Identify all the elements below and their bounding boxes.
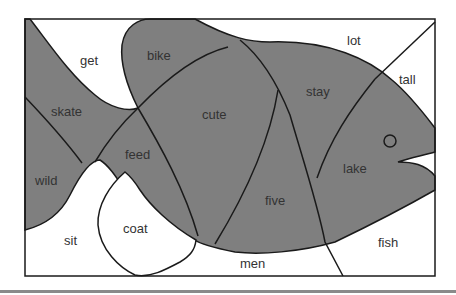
separator-bar — [0, 290, 456, 293]
label-lake: lake — [343, 161, 367, 176]
label-sit: sit — [64, 233, 77, 248]
label-men: men — [240, 256, 265, 271]
label-coat: coat — [123, 221, 148, 236]
label-cute: cute — [202, 107, 227, 122]
label-bike: bike — [147, 48, 171, 63]
fish-word-puzzle-figure: get bike lot tall skate cute stay feed l… — [0, 0, 456, 295]
label-five: five — [265, 193, 285, 208]
label-wild: wild — [34, 173, 57, 188]
label-lot: lot — [347, 33, 361, 48]
label-tall: tall — [399, 72, 416, 87]
label-skate: skate — [51, 104, 82, 119]
label-stay: stay — [306, 84, 330, 99]
label-feed: feed — [125, 147, 150, 162]
label-fish: fish — [378, 235, 398, 250]
label-get: get — [80, 53, 98, 68]
